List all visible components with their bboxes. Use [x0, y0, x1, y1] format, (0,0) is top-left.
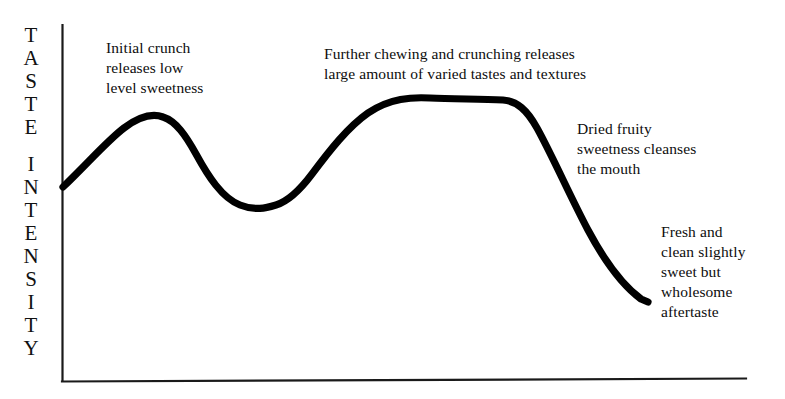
x-axis-line	[62, 379, 746, 382]
annotation-further-chewing: Further chewing and crunching releases l…	[324, 44, 674, 84]
taste-intensity-curve	[63, 98, 648, 302]
annotation-initial-crunch: Initial crunch releases low level sweetn…	[106, 38, 276, 98]
taste-intensity-figure: TASTE INTENSITY Initial crunch releases …	[0, 0, 785, 399]
annotation-dried-fruity: Dried fruity sweetness cleanses the mout…	[577, 119, 737, 179]
annotation-fresh-aftertaste: Fresh and clean slightly sweet but whole…	[661, 222, 785, 322]
